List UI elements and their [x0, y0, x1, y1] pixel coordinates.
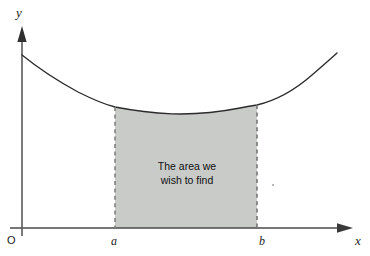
area-under-curve-figure: y x O a b The area we wish to find [0, 0, 370, 256]
region-annotation-line-1: The area we [128, 159, 246, 173]
region-annotation-line-2: wish to find [128, 173, 246, 187]
x-axis-arrow-icon [337, 223, 353, 233]
y-axis-label: y [16, 6, 22, 19]
tick-label-b: b [259, 235, 265, 247]
function-curve [22, 53, 337, 114]
scan-speck [272, 184, 274, 186]
figure-canvas [0, 0, 370, 256]
region-annotation: The area we wish to find [128, 159, 246, 187]
origin-label: O [7, 235, 16, 246]
x-axis-label: x [355, 234, 361, 247]
tick-label-a: a [111, 235, 117, 247]
y-axis-arrow-icon [17, 26, 26, 42]
